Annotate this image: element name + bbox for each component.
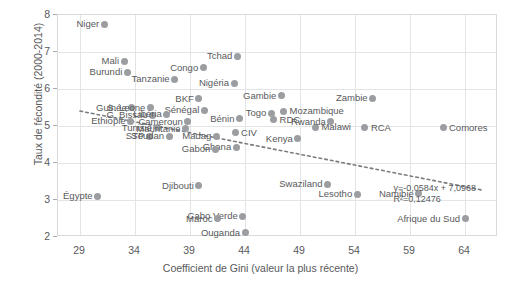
data-point[interactable] [101,21,108,28]
data-point[interactable] [369,95,376,102]
data-point-label: Lesotho [318,190,352,200]
data-point-label: Afrique du Sud [397,214,460,224]
data-point-label: Bénin [210,114,234,124]
data-point[interactable] [213,133,220,140]
data-point-label: Ouganda [201,228,240,238]
data-point[interactable] [124,69,131,76]
data-point-label: Ethiopie [91,116,125,126]
x-tick-label: 39 [169,245,209,255]
y-axis-label: Taux de fécondité (2000-2014) [32,14,44,174]
data-point-label: Comores [449,123,488,133]
y-tick-label: 4 [28,157,50,167]
y-tick-label: 3 [28,194,50,204]
data-point[interactable] [166,133,173,140]
fertility-gini-scatter-chart: Taux de fécondité (2000-2014) 2345678 Ni… [0,0,521,287]
data-point-label: Burundi [90,68,123,78]
data-point[interactable] [231,80,238,87]
y-tick-label: 8 [28,9,50,19]
data-point-label: BKF [175,94,193,104]
data-point-label: Tanzanie [132,74,170,84]
data-point[interactable] [232,129,239,136]
x-tick-label: 44 [224,245,264,255]
data-point[interactable] [214,215,221,222]
x-tick-label: 34 [114,245,154,255]
data-point-label: Tchad [207,52,232,62]
data-point[interactable] [324,181,331,188]
data-point-label: Mali [102,57,119,67]
data-point[interactable] [278,92,285,99]
data-point-label: Zambie [336,94,368,104]
x-axis-label: Coefficient de Gini (valeur la plus réce… [0,262,521,274]
data-point-label: Kenya [266,134,293,144]
data-point-label: Égypte [63,192,93,202]
data-point[interactable] [94,193,101,200]
data-point[interactable] [440,124,447,131]
data-point-label: Rwanda [291,117,326,127]
regression-r2: R²=0,12476 [394,194,477,205]
data-point-label: Soudan [131,132,164,142]
data-point-label: Gambie [243,91,276,101]
y-tick-label: 6 [28,83,50,93]
plot-area: NigerMaliBurundiTanzanieCongoNigériaTcha… [57,14,497,236]
data-point-label: Nigéria [199,79,229,89]
data-point[interactable] [171,76,178,83]
data-point[interactable] [201,107,208,114]
x-tick-label: 49 [279,245,319,255]
x-tick-label: 64 [444,245,484,255]
y-tick-label: 7 [28,46,50,56]
data-point-label: Swaziland [279,180,322,190]
regression-equation: y=-0,0584x + 7,0968 [394,183,477,194]
data-point[interactable] [354,191,361,198]
data-point-label: Madag [182,132,211,142]
data-point[interactable] [212,146,219,153]
data-point-label: Congo [170,63,198,73]
y-tick-mark [53,236,57,237]
data-point-label: CIV [241,128,257,138]
x-tick-label: 29 [59,245,99,255]
data-point[interactable] [233,144,240,151]
data-point[interactable] [121,58,128,65]
data-point-label: Gabon [182,145,211,155]
data-point-label: Maroc [186,214,212,224]
data-point-label: Togo [246,109,267,119]
y-tick-label: 5 [28,120,50,130]
y-tick-label: 2 [28,231,50,241]
data-point[interactable] [242,229,249,236]
data-point[interactable] [234,53,241,60]
data-point-label: Niger [76,20,99,30]
regression-equation-box: y=-0,0584x + 7,0968 R²=0,12476 [394,183,477,205]
data-point-label: RCA [371,123,391,133]
data-point-label: Djibouti [162,181,194,191]
data-point[interactable] [462,215,469,222]
x-tick-label: 54 [334,245,374,255]
x-tick-label: 59 [389,245,429,255]
data-point[interactable] [200,64,207,71]
